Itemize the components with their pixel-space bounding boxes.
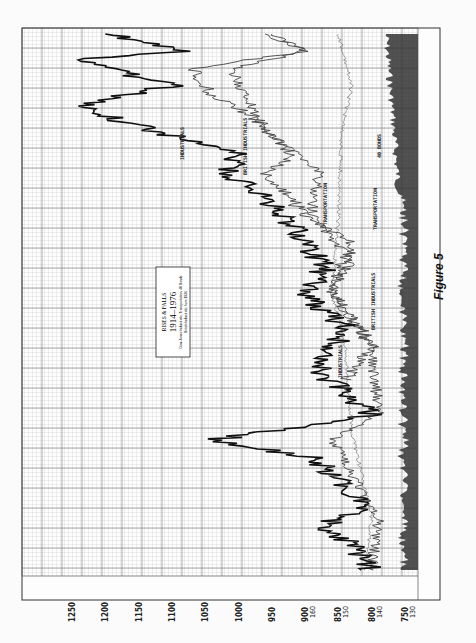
scanned-page: 1250120011501100105010009509001608501508… xyxy=(0,0,476,643)
title-line3: Dow-Jones Industrials, Transportation, 4… xyxy=(179,275,183,348)
value-axis-label: 1050 xyxy=(201,602,210,622)
rotated-chart: 1250120011501100105010009509001608501508… xyxy=(0,0,476,643)
label-bonds-upper: 40 BONDS xyxy=(376,134,382,158)
label-industrials-lower: INDUSTRIALS xyxy=(337,345,343,378)
value-axis-labels: 1250120011501100105010009509001608501508… xyxy=(68,602,417,622)
label-british-industrials-lower: BRITISH INDUSTRIALS xyxy=(370,273,376,330)
value-axis-label: 1100 xyxy=(168,602,177,622)
title-line2: 1914–1976 xyxy=(168,291,178,332)
value-axis-label: 1200 xyxy=(101,602,110,622)
secondary-axis-label: 130 xyxy=(409,606,417,618)
value-axis-label: 1000 xyxy=(235,602,244,622)
label-transportation-upper: TRANSPORTATION xyxy=(322,183,328,225)
value-axis-label: 1250 xyxy=(68,602,77,622)
grid-minor xyxy=(22,28,418,576)
secondary-axis-label: 140 xyxy=(376,606,384,618)
label-industrials-upper: INDUSTRIALS xyxy=(179,127,185,160)
label-transportation-mid: TRANSPORTATION xyxy=(372,188,378,230)
title-line1: RISES & FALLS xyxy=(161,293,167,331)
title-box: RISES & FALLS 1914–1976 Dow-Jones Indust… xyxy=(156,267,190,357)
label-british-industrials-upper: BRITISH INDUSTRIALS xyxy=(242,118,248,175)
value-axis-label: 1150 xyxy=(135,602,144,622)
secondary-axis-label: 150 xyxy=(342,606,350,618)
figure-caption: Figure 5 xyxy=(432,253,446,300)
title-line4: British Industrials from 1936 xyxy=(184,291,188,333)
secondary-axis-label: 160 xyxy=(309,606,317,618)
value-axis-label: 950 xyxy=(268,607,277,622)
